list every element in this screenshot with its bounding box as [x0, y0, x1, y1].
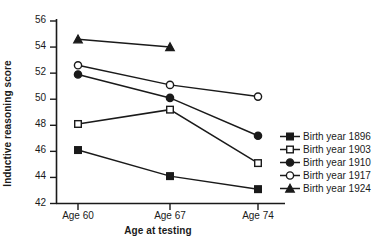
data-point-filled-circle — [74, 71, 81, 78]
legend-item-1[interactable]: Birth year 1903 — [279, 143, 371, 156]
series-line — [78, 110, 258, 163]
series-0 — [75, 147, 262, 193]
inductive-reasoning-line-chart: 5654525048464442 Age 60Age 67Age 74 Indu… — [0, 0, 392, 247]
data-point-open-circle — [74, 62, 81, 69]
x-tick-label: Age 67 — [140, 210, 200, 221]
data-point-filled-square — [167, 173, 174, 180]
legend-label: Birth year 1896 — [301, 131, 371, 142]
y-tick-label: 46 — [22, 144, 46, 155]
legend-label: Birth year 1903 — [301, 144, 371, 155]
data-point-filled-circle — [286, 159, 293, 166]
series-line — [78, 39, 170, 47]
y-axis-title: Inductive reasoning score — [0, 0, 16, 247]
legend-marker-open-square-icon — [279, 143, 301, 156]
legend-marker-open-circle-icon — [279, 169, 301, 182]
data-series-group — [74, 35, 262, 193]
legend-item-2[interactable]: Birth year 1910 — [279, 156, 371, 169]
x-tick-label: Age 60 — [48, 210, 108, 221]
y-tick-label: 42 — [22, 197, 46, 208]
data-point-filled-circle — [166, 94, 173, 101]
data-point-open-circle — [166, 81, 173, 88]
legend-label: Birth year 1917 — [301, 170, 371, 181]
legend-item-0[interactable]: Birth year 1896 — [279, 130, 371, 143]
y-tick-label: 52 — [22, 66, 46, 77]
legend-marker-filled-triangle-icon — [279, 182, 301, 195]
series-line — [78, 150, 258, 189]
legend-marker-filled-square-icon — [279, 130, 301, 143]
data-point-open-square — [75, 121, 82, 128]
x-axis-title: Age at testing — [48, 224, 268, 238]
chart-legend: Birth year 1896Birth year 1903Birth year… — [279, 130, 371, 195]
data-point-open-square — [255, 160, 262, 167]
data-point-filled-square — [255, 186, 262, 193]
y-axis-ticks — [50, 21, 57, 204]
legend-label: Birth year 1924 — [301, 183, 371, 194]
legend-marker-filled-circle-icon — [279, 156, 301, 169]
data-point-filled-square — [75, 147, 82, 154]
y-tick-label: 56 — [22, 14, 46, 25]
data-point-open-square — [287, 146, 294, 153]
legend-label: Birth year 1910 — [301, 157, 371, 168]
data-point-filled-square — [287, 133, 294, 140]
data-point-open-circle — [254, 93, 261, 100]
data-point-filled-circle — [254, 132, 261, 139]
y-tick-label: 54 — [22, 40, 46, 51]
legend-item-4[interactable]: Birth year 1924 — [279, 182, 371, 195]
y-tick-label: 50 — [22, 92, 46, 103]
legend-item-3[interactable]: Birth year 1917 — [279, 169, 371, 182]
x-tick-label: Age 74 — [228, 210, 288, 221]
data-point-open-circle — [286, 172, 293, 179]
series-4 — [74, 35, 175, 51]
y-tick-label: 44 — [22, 170, 46, 181]
y-tick-label: 48 — [22, 118, 46, 129]
data-point-open-square — [167, 106, 174, 113]
